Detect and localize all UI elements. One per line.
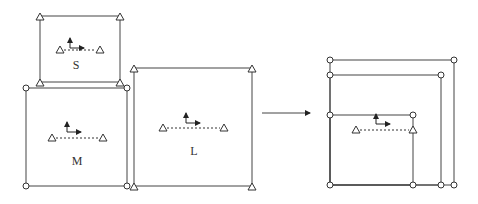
dashed-link: [56, 46, 104, 53]
triangle-endpoint-icon: [409, 126, 417, 133]
coordinate-axes-icon: [70, 38, 84, 48]
nested-square: [330, 115, 413, 185]
circle-marker-icon: [451, 182, 457, 188]
circle-marker-icon: [124, 85, 130, 91]
circle-marker-icon: [410, 112, 416, 118]
triangle-endpoint-icon: [99, 134, 107, 141]
box-label: M: [72, 154, 83, 168]
box-L: L: [130, 65, 256, 190]
circle-marker-icon: [410, 182, 416, 188]
circle-marker-icon: [327, 72, 333, 78]
nested-square: [330, 60, 454, 185]
circle-marker-icon: [23, 85, 29, 91]
triangle-endpoint-icon: [159, 124, 167, 131]
box-label: S: [73, 58, 80, 72]
right-panel: [327, 57, 457, 188]
triangle-endpoint-icon: [220, 124, 228, 131]
circle-marker-icon: [438, 72, 444, 78]
box-S: S: [36, 13, 124, 86]
circle-marker-icon: [327, 182, 333, 188]
dashed-link: [352, 126, 417, 133]
triangle-endpoint-icon: [96, 46, 104, 53]
box-label: L: [190, 144, 197, 158]
triangle-endpoint-icon: [48, 134, 56, 141]
circle-marker-icon: [438, 182, 444, 188]
circle-marker-icon: [124, 183, 130, 189]
circle-marker-icon: [327, 57, 333, 63]
circle-marker-icon: [451, 57, 457, 63]
dashed-link: [159, 124, 228, 131]
coordinate-axes-icon: [186, 113, 200, 123]
diagram-canvas: SML: [0, 0, 478, 204]
circle-marker-icon: [23, 183, 29, 189]
triangle-endpoint-icon: [352, 126, 360, 133]
left-panel: SML: [23, 13, 256, 190]
coordinate-axes-icon: [67, 122, 81, 132]
triangle-endpoint-icon: [56, 46, 64, 53]
circle-marker-icon: [327, 112, 333, 118]
box-M: M: [23, 85, 130, 189]
dashed-link: [48, 134, 107, 141]
